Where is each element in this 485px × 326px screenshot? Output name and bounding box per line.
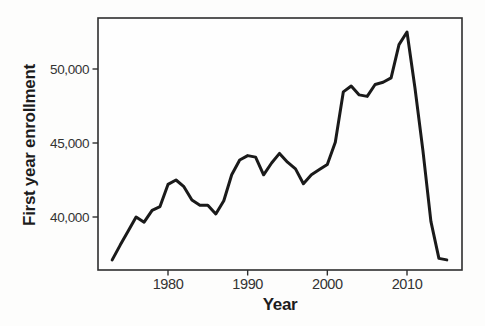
plot-border (98, 18, 462, 270)
x-axis-label: Year (263, 295, 298, 315)
y-tick-label: 45,000 (50, 136, 89, 151)
y-tick-label: 40,000 (50, 210, 89, 225)
x-tick-label: 1980 (153, 276, 184, 292)
x-tick-label: 1990 (232, 276, 263, 292)
x-tick-label: 2000 (312, 276, 343, 292)
enrollment-trend-figure: First year enrollment 40,00045,00050,000… (0, 0, 485, 326)
plot-area: 40,00045,00050,0001980199020002010 (0, 0, 485, 326)
x-tick-label: 2010 (392, 276, 423, 292)
y-tick-label: 50,000 (50, 62, 89, 77)
